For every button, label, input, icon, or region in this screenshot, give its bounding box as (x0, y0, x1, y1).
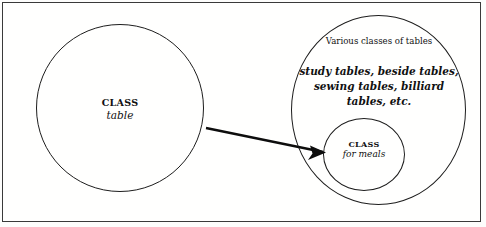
label-class-name-inner: for meals (323, 149, 405, 160)
label-class-keyword-left: CLASS (36, 97, 204, 109)
label-various-classes-caption: Various classes of tables (302, 36, 456, 47)
label-class-name-left: table (36, 109, 204, 122)
label-class-table: CLASS table (36, 97, 204, 122)
diagram-canvas: CLASS table Various classes of tables st… (0, 0, 486, 227)
label-table-examples: study tables, beside tables, sewing tabl… (295, 64, 463, 110)
label-class-keyword-inner: CLASS (323, 139, 405, 149)
label-class-for-meals: CLASS for meals (323, 139, 405, 160)
label-table-examples-line1: study tables, beside tables, (299, 65, 458, 77)
label-table-examples-line2: sewing tables, billiard tables, etc. (314, 80, 444, 107)
